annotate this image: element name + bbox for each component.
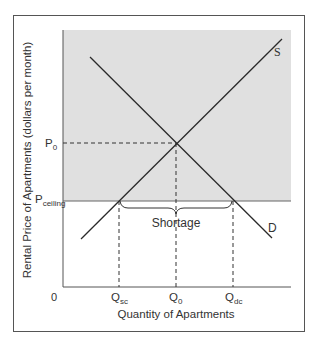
- supply-label: S: [274, 45, 281, 59]
- demand-label: D: [268, 221, 277, 235]
- origin-label: 0: [51, 291, 57, 303]
- x-axis-title: Quantity of Apartments: [118, 308, 235, 320]
- shortage-label: Shortage: [152, 216, 201, 230]
- y-axis-title: Rental Price of Apartments (dollars per …: [21, 42, 33, 279]
- price-ceiling-diagram: Shortage S D P0 Pceiling 0 Qsc Q0 Qdc Qu…: [0, 0, 315, 344]
- shaded-region: [63, 30, 291, 201]
